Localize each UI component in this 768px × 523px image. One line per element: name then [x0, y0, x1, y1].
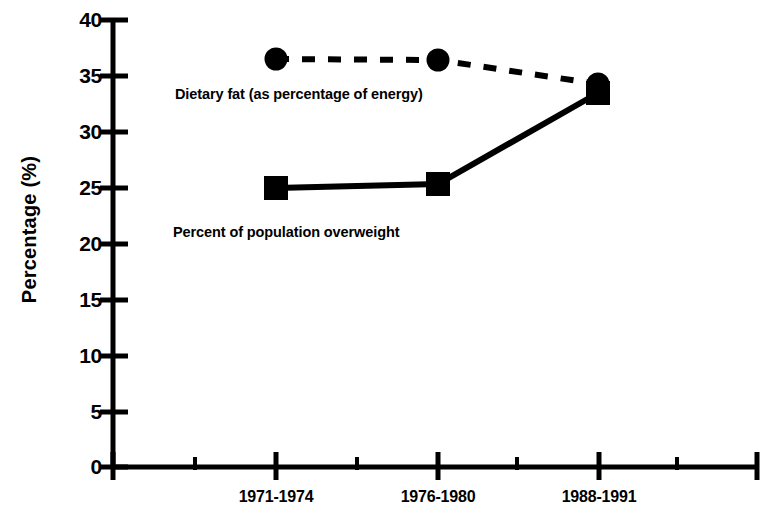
data-point-overweight-1971-1974: [264, 176, 288, 200]
data-point-overweight-1988-1991: [586, 81, 610, 105]
series-overweight: [264, 81, 610, 200]
data-point-dietary-fat-1976-1980: [427, 49, 450, 72]
chart-figure: Percentage (%) 40 35 30 25 20 15 10 5 0 …: [0, 0, 768, 523]
data-point-overweight-1976-1980: [426, 172, 450, 196]
plot-area: [0, 0, 768, 523]
series-dietary-fat: [265, 48, 610, 96]
data-point-dietary-fat-1971-1974: [265, 48, 288, 71]
